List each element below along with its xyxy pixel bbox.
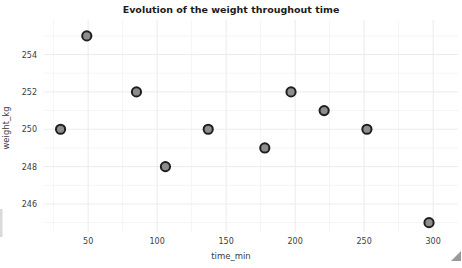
data-point <box>204 125 213 134</box>
y-tick-label: 252 <box>22 88 37 97</box>
y-axis-label: weight_kg <box>1 106 11 149</box>
data-point <box>56 125 65 134</box>
major-gridlines <box>44 20 458 232</box>
resize-grip-icon[interactable] <box>451 251 461 261</box>
data-point <box>286 87 295 96</box>
x-tick-label: 250 <box>357 237 372 246</box>
left-edge-artifact <box>0 209 3 237</box>
data-point <box>161 162 170 171</box>
x-tick-label: 150 <box>219 237 234 246</box>
data-point <box>260 143 269 152</box>
data-point <box>132 87 141 96</box>
x-tick-label: 100 <box>150 237 165 246</box>
x-tick-label: 200 <box>288 237 303 246</box>
scatter-plot: 50100150200250300 246248250252254 Evolut… <box>0 0 462 268</box>
y-tick-label: 254 <box>22 51 37 60</box>
chart-title: Evolution of the weight throughout time <box>123 4 340 15</box>
data-point <box>362 125 371 134</box>
y-tick-labels: 246248250252254 <box>22 51 37 209</box>
data-point <box>82 31 91 40</box>
y-tick-label: 250 <box>22 125 37 134</box>
data-point <box>424 218 433 227</box>
y-tick-label: 248 <box>22 163 37 172</box>
chart-figure: 50100150200250300 246248250252254 Evolut… <box>0 0 462 268</box>
x-tick-label: 50 <box>83 237 93 246</box>
data-point <box>320 106 329 115</box>
x-tick-labels: 50100150200250300 <box>83 237 441 246</box>
x-axis-label: time_min <box>211 251 250 261</box>
y-tick-label: 246 <box>22 200 37 209</box>
x-tick-label: 300 <box>426 237 441 246</box>
minor-gridlines <box>44 20 458 232</box>
